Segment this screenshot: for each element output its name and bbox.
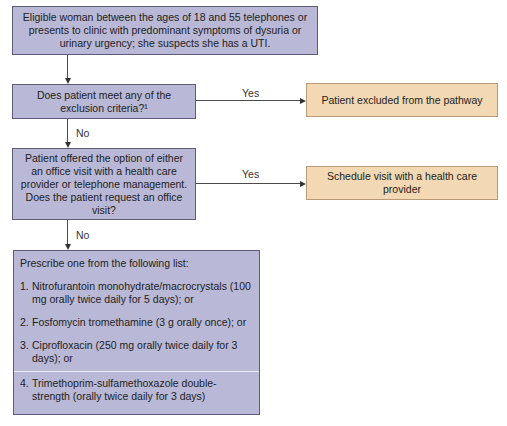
prescription-option: 4. Trimethoprim-sulfamethoxazole double-… xyxy=(20,377,253,403)
option-number: 4. xyxy=(20,377,32,403)
connector-start-to-exclusion xyxy=(67,55,68,78)
schedule-outcome-text: Schedule visit with a health care provid… xyxy=(310,170,494,196)
divider xyxy=(14,371,259,372)
office-visit-decision-box: Patient offered the option of either an … xyxy=(12,148,196,220)
option-number: 3. xyxy=(20,339,32,365)
connector-exclusion-no xyxy=(67,119,68,142)
connector-office-no xyxy=(67,220,68,244)
option-text: Ciprofloxacin (250 mg orally twice daily… xyxy=(32,339,253,365)
prescription-option: 1. Nitrofurantoin monohydrate/macrocryst… xyxy=(20,280,253,306)
office-yes-label: Yes xyxy=(242,168,259,180)
prescription-option: 3. Ciprofloxacin (250 mg orally twice da… xyxy=(20,339,253,365)
office-no-label: No xyxy=(76,229,89,241)
option-text: Trimethoprim-sulfamethoxazole double-str… xyxy=(32,377,253,403)
exclusion-decision-box: Does patient meet any of the exclusion c… xyxy=(12,84,196,119)
option-text: Fosfomycin tromethamine (3 g orally once… xyxy=(32,316,253,329)
excluded-outcome-text: Patient excluded from the pathway xyxy=(321,94,482,107)
exclusion-no-label: No xyxy=(76,127,89,139)
prescription-option: 2. Fosfomycin tromethamine (3 g orally o… xyxy=(20,316,253,329)
connector-office-yes xyxy=(196,183,300,184)
exclusion-yes-label: Yes xyxy=(242,87,259,99)
option-text: Nitrofurantoin monohydrate/macrocrystals… xyxy=(32,280,253,306)
start-box: Eligible woman between the ages of 18 an… xyxy=(12,6,318,55)
schedule-outcome-box: Schedule visit with a health care provid… xyxy=(306,166,498,200)
exclusion-decision-text: Does patient meet any of the exclusion c… xyxy=(19,89,189,115)
option-number: 2. xyxy=(20,316,32,329)
excluded-outcome-box: Patient excluded from the pathway xyxy=(306,83,498,117)
start-text: Eligible woman between the ages of 18 an… xyxy=(19,11,311,50)
prescribe-intro: Prescribe one from the following list: xyxy=(20,257,253,270)
option-number: 1. xyxy=(20,280,32,306)
connector-exclusion-yes xyxy=(196,100,300,101)
office-visit-decision-text: Patient offered the option of either an … xyxy=(19,152,189,217)
prescribe-box: Prescribe one from the following list: 1… xyxy=(13,250,260,415)
